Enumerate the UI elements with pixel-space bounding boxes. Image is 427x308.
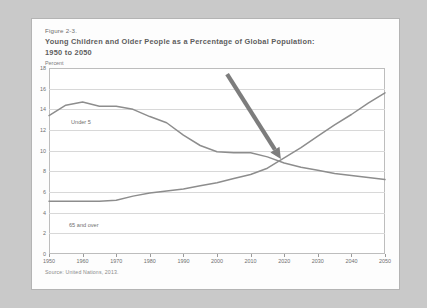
x-axis-tick-mark [284, 254, 285, 257]
y-axis-tick-label: 18 [40, 65, 46, 71]
y-axis-unit-label: Percent [45, 60, 64, 66]
y-axis-tick-label: 0 [43, 251, 46, 257]
x-axis-tick-label: 1970 [110, 258, 122, 264]
series-label-under-5: Under 5 [71, 119, 91, 125]
x-axis-tick-mark [318, 254, 319, 257]
x-axis-tick-mark [83, 254, 84, 257]
x-axis-tick-mark [351, 254, 352, 257]
x-axis-tick-label: 1980 [144, 258, 156, 264]
source-note: Source: United Nations, 2013. [45, 269, 119, 275]
x-axis-tick-label: 2040 [345, 258, 357, 264]
x-axis-tick-mark [251, 254, 252, 257]
y-axis-tick-label: 2 [43, 230, 46, 236]
y-axis-tick-label: 4 [43, 210, 46, 216]
x-axis-tick-mark [150, 254, 151, 257]
line-under-5 [49, 102, 385, 180]
y-axis-tick-label: 16 [40, 86, 46, 92]
x-axis-tick-label: 1960 [77, 258, 89, 264]
x-axis-tick-mark [217, 254, 218, 257]
y-axis-tick-label: 6 [43, 189, 46, 195]
series-label-65-and-over: 65 and over [69, 222, 99, 228]
line-65-and-over [49, 93, 385, 202]
y-axis-tick-label: 14 [40, 106, 46, 112]
y-axis-tick-label: 10 [40, 148, 46, 154]
figure-card: Figure 2-3. Young Children and Older Peo… [31, 18, 400, 290]
x-axis-tick-label: 2050 [379, 258, 391, 264]
crossover-arrow-shaft [227, 74, 275, 149]
figure-subtitle: 1950 to 2050 [45, 48, 92, 57]
screenshot-root: Figure 2-3. Young Children and Older Peo… [0, 0, 427, 308]
x-axis-tick-label: 1950 [43, 258, 55, 264]
series-lines [49, 68, 385, 254]
x-axis-tick-mark [183, 254, 184, 257]
y-axis-tick-label: 12 [40, 127, 46, 133]
x-axis-tick-mark [385, 254, 386, 257]
x-axis-tick-mark [49, 254, 50, 257]
figure-number: Figure 2-3. [45, 27, 77, 34]
x-axis-tick-label: 2030 [312, 258, 324, 264]
crossover-arrow [227, 74, 281, 159]
y-axis-tick-label: 8 [43, 168, 46, 174]
x-axis-tick-label: 2010 [245, 258, 257, 264]
figure-title: Young Children and Older People as a Per… [45, 37, 315, 48]
x-axis-tick-label: 2020 [278, 258, 290, 264]
x-axis-tick-mark [116, 254, 117, 257]
plot-area: 024681012141618 195019601970198019902000… [49, 68, 385, 254]
x-axis-tick-label: 2000 [211, 258, 223, 264]
x-axis-tick-label: 1990 [177, 258, 189, 264]
